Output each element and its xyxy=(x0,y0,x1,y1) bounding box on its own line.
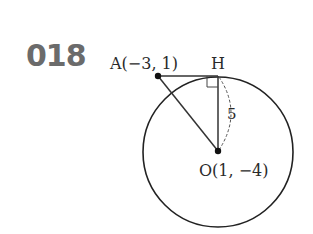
point-o-dot xyxy=(215,148,221,154)
point-a-dot xyxy=(155,73,161,79)
label-point-a: A(−3, 1) xyxy=(109,54,178,73)
geometry-diagram: A(−3, 1) H 5 O(1, −4) xyxy=(0,0,313,234)
label-point-o: O(1, −4) xyxy=(199,161,269,180)
label-distance: 5 xyxy=(227,105,237,123)
label-point-h: H xyxy=(211,54,225,73)
